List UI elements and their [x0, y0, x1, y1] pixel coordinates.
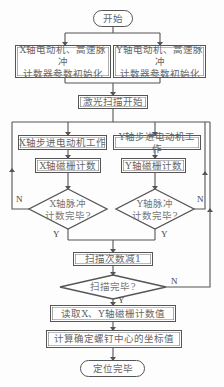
init-x-line2: 计数器参数初始化	[23, 68, 103, 80]
init-y-box: Y轴电动机、高速脉冲 计数器参数初始化	[113, 45, 206, 78]
y-grating-box: Y轴磁栅计数	[121, 158, 186, 173]
x-decision-line1: X轴脉冲	[38, 198, 98, 210]
init-x-line1: X轴电动机、高速脉冲	[16, 44, 110, 68]
y-decision-text: Y轴脉冲 计数完毕?	[125, 198, 185, 222]
y-decision-line1: Y轴脉冲	[125, 198, 185, 210]
x-decision-line2: 计数完毕?	[38, 210, 98, 222]
x-stepper-box: X轴步进电动机工作	[18, 135, 107, 150]
scan-decrement-box: 扫描次数减1	[73, 252, 153, 266]
y-decision-line2: 计数完毕?	[125, 210, 185, 222]
read-counts-box: 读取X、Y轴磁栅计数值	[50, 305, 176, 322]
y-yes-label: Y	[161, 229, 168, 239]
x-decision-text: X轴脉冲 计数完毕?	[38, 198, 98, 222]
x-yes-label: Y	[53, 229, 60, 239]
end-terminal: 定位完毕	[80, 360, 145, 377]
scan-no-label: N	[171, 276, 178, 286]
laser-scan-start-box: 激光扫描开始	[78, 95, 148, 109]
x-grating-box: X轴磁栅计数	[35, 158, 101, 173]
x-no-label: N	[16, 194, 23, 204]
y-stepper-box: Y轴步进电动机工作	[113, 135, 201, 150]
compute-center-box: 计算确定螺钉中心的坐标值	[46, 330, 182, 348]
start-terminal: 开始	[93, 10, 133, 27]
init-x-box: X轴电动机、高速脉冲 计数器参数初始化	[15, 45, 111, 78]
init-y-line2: 计数器参数初始化	[120, 68, 200, 80]
scan-yes-label: Y	[118, 295, 125, 305]
scan-done-text: 扫描完毕?	[83, 281, 143, 293]
y-no-label: N	[197, 194, 204, 204]
init-y-line1: Y轴电动机、高速脉冲	[114, 44, 205, 68]
